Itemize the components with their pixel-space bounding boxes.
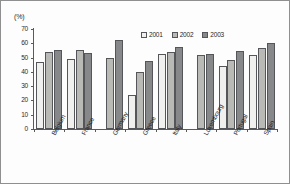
y-tick-label: 50 xyxy=(1,54,28,61)
bar-france-2002 xyxy=(76,50,84,129)
x-tick-mark xyxy=(247,129,248,132)
x-tick-mark xyxy=(34,129,35,132)
bar-belgium-2002 xyxy=(45,52,53,129)
y-tick-label: 10 xyxy=(1,111,28,118)
y-tick-label: 60 xyxy=(1,39,28,46)
bar-group-germany xyxy=(97,29,123,129)
bar-belgium-2001 xyxy=(36,62,44,129)
y-tick-label: 30 xyxy=(1,82,28,89)
bar-italy-2002 xyxy=(167,52,175,129)
bar-group-luxembourg xyxy=(188,29,214,129)
x-tick-mark xyxy=(64,129,65,132)
bar-group-greece xyxy=(128,29,154,129)
plot-area xyxy=(34,29,277,129)
bar-france-2001 xyxy=(67,59,75,129)
x-tick-mark xyxy=(95,129,96,132)
x-tick-mark xyxy=(125,129,126,132)
y-tick-label: 70 xyxy=(1,25,28,32)
bar-group-france xyxy=(67,29,93,129)
y-axis-unit-label: (%) xyxy=(14,13,24,20)
bar-greece-2002 xyxy=(136,72,144,129)
y-tick-label: 0 xyxy=(1,125,28,132)
chart-figure: (%) 200120022003 010203040506070 Belgium… xyxy=(0,0,290,184)
x-tick-mark xyxy=(156,129,157,132)
bar-luxembourg-2002 xyxy=(197,55,205,129)
x-tick-mark xyxy=(186,129,187,132)
bar-portugal-2001 xyxy=(219,66,227,129)
x-tick-mark xyxy=(216,129,217,132)
bar-portugal-2002 xyxy=(227,60,235,129)
bar-group-spain xyxy=(249,29,275,129)
bar-spain-2001 xyxy=(249,55,257,129)
bar-germany-2002 xyxy=(106,58,114,129)
bar-group-belgium xyxy=(36,29,62,129)
bar-italy-2001 xyxy=(158,54,166,129)
bar-spain-2003 xyxy=(267,43,275,129)
bar-italy-2003 xyxy=(175,47,183,129)
bar-spain-2002 xyxy=(258,48,266,129)
y-tick-label: 40 xyxy=(1,68,28,75)
bar-group-italy xyxy=(158,29,184,129)
bar-group-portugal xyxy=(219,29,245,129)
x-tick-mark xyxy=(277,129,278,132)
y-tick-label: 20 xyxy=(1,96,28,103)
bar-greece-2001 xyxy=(128,95,136,129)
